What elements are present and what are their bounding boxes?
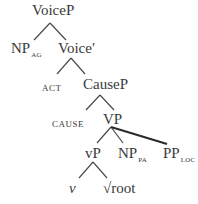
edge-causep-cause xyxy=(86,95,100,110)
node-causep: CauseP xyxy=(83,77,128,92)
edge-causep-vp xyxy=(100,95,114,110)
node-voice-bar: Voice′ xyxy=(58,41,95,56)
edge-voicebar-act xyxy=(57,58,71,74)
edge-vp-littlevp xyxy=(97,127,111,143)
edge-vp-pploc xyxy=(111,127,167,144)
edge-voicep-npag xyxy=(34,23,50,40)
node-label: VP xyxy=(103,111,122,127)
node-np-ag: NPAG xyxy=(11,41,42,59)
node-little-vp: vP xyxy=(85,146,101,161)
node-label: Voice′ xyxy=(58,40,95,56)
node-label: NP xyxy=(118,145,137,161)
node-label: NP xyxy=(11,40,30,56)
node-label: ACT xyxy=(42,83,62,93)
node-subscript: LOC xyxy=(181,156,196,164)
node-label: vP xyxy=(85,145,101,161)
node-root: √root xyxy=(103,181,135,196)
node-label: v xyxy=(69,180,76,196)
node-cause: CAUSE xyxy=(52,117,84,132)
node-voicep: VoiceP xyxy=(32,3,74,18)
node-label: CauseP xyxy=(83,76,128,92)
node-label: PP xyxy=(163,145,180,161)
node-label: VoiceP xyxy=(32,2,74,18)
node-subscript: PA xyxy=(138,156,147,164)
node-label: CAUSE xyxy=(52,119,84,129)
node-np-pa: NPPA xyxy=(118,146,147,164)
node-vp: VP xyxy=(103,112,122,127)
tree-edges xyxy=(0,0,198,204)
node-label: √root xyxy=(103,180,135,196)
node-subscript: AG xyxy=(31,51,42,59)
edge-littlevp-root xyxy=(93,162,107,178)
node-act: ACT xyxy=(42,81,62,96)
node-little-v: v xyxy=(69,181,76,196)
edge-littlevp-v xyxy=(79,162,93,178)
edge-voicebar-causep xyxy=(71,58,85,74)
node-pp-loc: PPLOC xyxy=(163,146,195,164)
edge-voicep-voicebar xyxy=(50,23,66,40)
syntax-tree-diagram: VoiceP NPAG Voice′ ACT CauseP CAUSE VP v… xyxy=(0,0,198,204)
